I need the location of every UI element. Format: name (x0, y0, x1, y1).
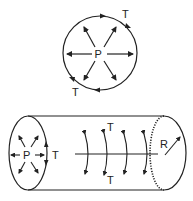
body-tension-label-bottom: T (107, 174, 114, 186)
diagram-figure: P T T P T (0, 0, 193, 201)
end-tension-label: T (52, 149, 59, 161)
radius-label: R (160, 138, 168, 150)
end-pressure-label: P (23, 149, 30, 161)
cylinder: P T T T R (9, 116, 186, 190)
tension-label-top: T (122, 8, 129, 20)
pressure-label: P (95, 48, 102, 60)
diagram-svg: P T T P T (0, 0, 193, 201)
circle-cross-section: P T T (63, 8, 137, 98)
body-tension-label-top: T (107, 121, 114, 133)
tension-label-bottom: T (72, 86, 79, 98)
